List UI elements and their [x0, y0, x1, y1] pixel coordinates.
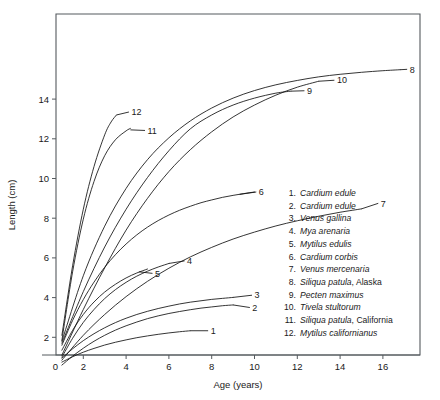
x-tick-label: 0 [53, 361, 58, 372]
x-tick-label: 8 [209, 361, 214, 372]
y-tick-label: 12 [38, 133, 49, 144]
legend-item-species: Mya arenaria [300, 226, 350, 236]
legend-item-species: Cardium edule [300, 188, 356, 198]
legend-item-species: Mytilus edulis [300, 239, 352, 249]
curve-label-4: 4 [187, 256, 192, 266]
legend-item-species: Pecten maximus [300, 290, 364, 300]
legend-item-number: 5. [289, 239, 296, 249]
y-tick-label: 8 [44, 213, 49, 224]
x-tick-label: 14 [335, 361, 346, 372]
curve-label-11: 11 [148, 126, 157, 136]
legend-item-number: 2. [289, 201, 296, 211]
curve-label-8: 8 [410, 65, 415, 75]
legend-item-number: 6. [289, 252, 296, 262]
legend-item-number: 10. [284, 302, 296, 312]
y-tick-label: 2 [44, 332, 49, 343]
legend-item-number: 8. [289, 277, 296, 287]
legend-item-number: 3. [289, 213, 296, 223]
legend-item-number: 12. [284, 328, 296, 338]
x-tick-label: 16 [378, 361, 389, 372]
legend-item-number: 11. [285, 315, 296, 325]
curve-label-12: 12 [131, 107, 141, 117]
legend-item-species: Cardium corbis [300, 252, 358, 262]
curve-label-1: 1 [211, 326, 216, 336]
curve-label-10: 10 [337, 75, 347, 85]
growth-curve-figure: 0246810121416 2468101214 123456789101112… [0, 0, 440, 400]
y-tick-label: 10 [38, 173, 49, 184]
chart-background [0, 0, 440, 400]
x-tick-label: 2 [81, 361, 86, 372]
legend-item-number: 4. [289, 226, 296, 236]
legend-item-number: 7. [289, 264, 296, 274]
curve-label-leader [130, 130, 145, 131]
chart-canvas: 0246810121416 2468101214 123456789101112… [0, 0, 440, 400]
x-tick-label: 10 [249, 361, 260, 372]
curve-label-7: 7 [381, 199, 386, 209]
y-tick-label: 14 [38, 94, 49, 105]
curve-label-3: 3 [255, 290, 260, 300]
x-tick-label: 6 [166, 361, 171, 372]
legend-item-species: Mytilus californianus [300, 328, 378, 338]
curve-label-5: 5 [155, 269, 160, 279]
legend-item-number: 9. [289, 290, 296, 300]
legend-item-species: Siliqua patula, Alaska [300, 277, 382, 287]
y-tick-label: 6 [44, 252, 49, 263]
curve-label-9: 9 [307, 86, 312, 96]
y-tick-label: 4 [44, 292, 49, 303]
x-axis-title: Age (years) [213, 379, 262, 390]
curve-label-6: 6 [259, 187, 264, 197]
legend-item-number: 1. [289, 188, 296, 198]
curve-label-2: 2 [252, 303, 257, 313]
x-tick-label: 12 [292, 361, 303, 372]
legend-item-species: Cardium edule [300, 201, 356, 211]
y-axis-title: Length (cm) [6, 180, 17, 231]
legend-item-species: Venus mercenaria [300, 264, 370, 274]
legend-item-species: Siliqua patula, California [300, 315, 393, 325]
x-tick-label: 4 [123, 361, 128, 372]
legend-item-species: Tivela stultorum [300, 302, 361, 312]
legend-item-species: Venus gallina [300, 213, 352, 223]
